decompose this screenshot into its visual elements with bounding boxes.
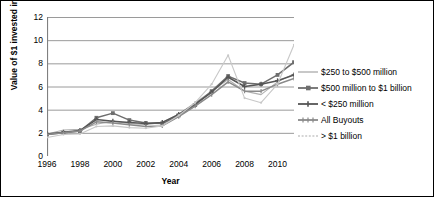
y-axis-tick-labels: 024681012 <box>21 17 43 156</box>
chart-figure: Value of $1 invested in 1995 024681012 1… <box>0 0 434 197</box>
series-marker-4 <box>194 102 196 104</box>
series-marker-1 <box>292 60 294 64</box>
series-marker-4 <box>145 127 147 129</box>
series-marker-4 <box>260 102 262 104</box>
legend-swatch-icon <box>297 129 319 143</box>
series-marker-1 <box>276 73 280 77</box>
series-line-1 <box>47 62 294 134</box>
chart-legend: $250 to $500 million$500 million to $1 b… <box>297 64 433 144</box>
x-tick-label: 2002 <box>131 159 161 169</box>
legend-label: < $250 million <box>321 99 374 109</box>
x-tick-label: 2010 <box>263 159 293 169</box>
series-line-0 <box>47 74 294 134</box>
y-tick-label: 8 <box>23 59 43 67</box>
legend-swatch-icon <box>297 113 319 127</box>
x-tick-label: 2004 <box>164 159 194 169</box>
series-marker-4 <box>79 133 81 135</box>
series-marker-4 <box>62 133 64 135</box>
y-tick-label: 4 <box>23 106 43 114</box>
series-marker-4 <box>161 125 163 127</box>
series-marker-1 <box>111 111 115 115</box>
legend-swatch-icon <box>297 97 319 111</box>
x-tick-label: 2008 <box>230 159 260 169</box>
legend-swatch-icon <box>297 81 319 95</box>
x-tick-label: 2006 <box>197 159 227 169</box>
series-marker-4 <box>178 114 180 116</box>
legend-item-1[interactable]: $500 million to $1 billion <box>297 80 433 96</box>
chart-svg <box>47 17 294 156</box>
x-tick-label: 2000 <box>98 159 128 169</box>
legend-label: > $1 billion <box>321 131 362 141</box>
series-marker-4 <box>227 54 229 56</box>
x-axis-title: Year <box>47 176 294 186</box>
series-marker-4 <box>244 97 246 99</box>
series-marker-4 <box>211 83 213 85</box>
legend-item-4[interactable]: > $1 billion <box>297 128 433 144</box>
series-marker-4 <box>293 44 294 46</box>
y-tick-label: 6 <box>23 83 43 91</box>
series-marker-4 <box>95 125 97 127</box>
series-marker-4 <box>128 127 130 129</box>
legend-item-3[interactable]: All Buyouts <box>297 112 433 128</box>
legend-label: $250 to $500 million <box>321 67 397 77</box>
y-tick-label: 10 <box>23 36 43 44</box>
x-tick-label: 1998 <box>65 159 95 169</box>
legend-item-2[interactable]: < $250 million <box>297 96 433 112</box>
legend-label: All Buyouts <box>321 115 364 125</box>
series-marker-4 <box>112 125 114 127</box>
y-axis-title: Value of $1 invested in 1995 <box>9 0 19 99</box>
x-tick-label: 1996 <box>32 159 62 169</box>
x-axis-tick-labels: 19961998200020022004200620082010 <box>47 159 294 171</box>
y-tick-label: 12 <box>23 13 43 21</box>
legend-label: $500 million to $1 billion <box>321 83 412 93</box>
plot-area <box>47 17 294 156</box>
legend-item-0[interactable]: $250 to $500 million <box>297 64 433 80</box>
y-tick-label: 2 <box>23 129 43 137</box>
legend-swatch-icon <box>297 65 319 79</box>
series-marker-4 <box>276 83 278 85</box>
